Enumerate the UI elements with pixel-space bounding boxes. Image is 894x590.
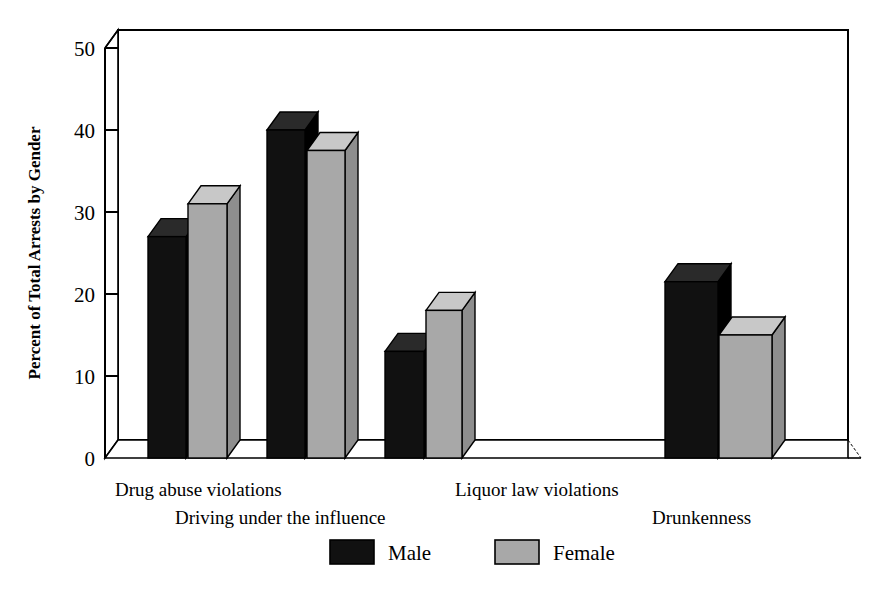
bar-front-face <box>267 130 305 458</box>
corner-diagonal-right <box>848 440 861 458</box>
bar-side-face <box>462 292 475 458</box>
legend-label-female: Female <box>553 541 615 565</box>
category-labels: Drug abuse violationsDriving under the i… <box>115 479 751 528</box>
y-tick-label: 20 <box>74 283 95 307</box>
bar-front-face <box>148 237 186 458</box>
y-tick-label: 0 <box>85 447 96 471</box>
bar-side-face <box>772 317 785 458</box>
bar-side-face <box>345 133 358 459</box>
legend-swatch-male <box>330 540 374 564</box>
y-tick-label: 50 <box>74 37 95 61</box>
y-tick-label: 40 <box>74 119 95 143</box>
category-label-0: Drug abuse violations <box>115 479 282 500</box>
bar-front-face <box>307 151 345 459</box>
y-axis-title: Percent of Total Arrests by Gender <box>25 126 44 379</box>
bar-female-3 <box>719 317 785 458</box>
legend: MaleFemale <box>330 540 615 565</box>
category-label-1: Driving under the influence <box>175 507 386 528</box>
bar-front-face <box>719 335 772 458</box>
legend-label-male: Male <box>388 541 431 565</box>
bar-female-1 <box>307 133 358 459</box>
legend-swatch-female <box>495 540 539 564</box>
bar-front-face <box>665 282 718 458</box>
bar-front-face <box>188 204 227 458</box>
bar-side-face <box>227 186 240 458</box>
left-wall <box>105 30 118 458</box>
bar-female-2 <box>426 292 475 458</box>
chart-container: 50403020100Percent of Total Arrests by G… <box>0 0 894 590</box>
bar-chart-svg: 50403020100Percent of Total Arrests by G… <box>0 0 894 590</box>
category-label-3: Drunkenness <box>652 507 751 528</box>
y-axis: 50403020100Percent of Total Arrests by G… <box>25 37 118 471</box>
bar-female-0 <box>188 186 240 458</box>
y-tick-label: 10 <box>74 365 95 389</box>
bar-front-face <box>426 310 462 458</box>
y-tick-label: 30 <box>74 201 95 225</box>
bar-front-face <box>385 351 424 458</box>
category-label-2: Liquor law violations <box>455 479 619 500</box>
